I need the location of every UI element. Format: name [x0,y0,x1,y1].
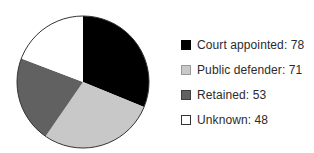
legend-item-public-defender: Public defender: 71 [181,64,304,76]
pie-chart-area [0,0,170,153]
legend-swatch-court-appointed [181,40,191,50]
legend-label-retained: Retained: 53 [197,89,266,101]
legend: Court appointed: 78 Public defender: 71 … [181,39,304,126]
legend-label-court-appointed: Court appointed: 78 [197,39,304,51]
pie-chart-figure: Court appointed: 78 Public defender: 71 … [0,0,314,153]
legend-label-public-defender: Public defender: 71 [197,64,302,76]
legend-swatch-public-defender [181,65,191,75]
legend-swatch-unknown [181,115,191,125]
legend-item-unknown: Unknown: 48 [181,114,304,126]
pie-chart [0,0,170,153]
legend-label-unknown: Unknown: 48 [197,114,268,126]
legend-item-court-appointed: Court appointed: 78 [181,39,304,51]
legend-item-retained: Retained: 53 [181,89,304,101]
legend-swatch-retained [181,90,191,100]
